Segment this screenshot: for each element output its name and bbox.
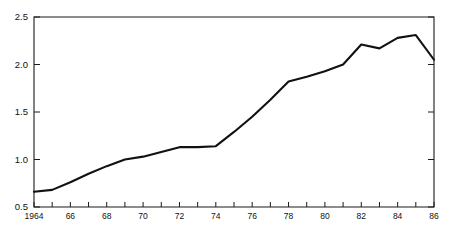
y-axis-tick-labels: 0.51.01.52.02.5 xyxy=(15,11,28,212)
data-series-line xyxy=(34,35,434,192)
x-tick-label: 86 xyxy=(429,211,439,221)
x-tick-label: 82 xyxy=(357,211,367,221)
x-tick-label: 76 xyxy=(247,211,257,221)
y-tick-label: 1.5 xyxy=(15,106,28,117)
axis-frame xyxy=(34,17,434,207)
x-tick-label: 1964 xyxy=(25,211,44,221)
y-tick-label: 1.0 xyxy=(15,154,28,165)
x-tick-label: 70 xyxy=(138,211,148,221)
x-tick-label: 72 xyxy=(175,211,185,221)
x-tick-label: 80 xyxy=(320,211,330,221)
plot-border xyxy=(34,17,434,207)
x-tick-label: 84 xyxy=(393,211,403,221)
chart-figure: 0.51.01.52.02.5 196466687072747678808284… xyxy=(0,0,452,246)
x-tick-label: 68 xyxy=(102,211,112,221)
x-tick-label: 78 xyxy=(284,211,294,221)
y-tick-label: 2.5 xyxy=(15,11,28,22)
x-axis-ticks xyxy=(34,202,434,207)
chart-title xyxy=(0,0,452,5)
x-tick-label: 66 xyxy=(66,211,76,221)
y-tick-label: 2.0 xyxy=(15,59,28,70)
x-tick-label: 74 xyxy=(211,211,221,221)
line-chart-plot: 0.51.01.52.02.5 196466687072747678808284… xyxy=(0,0,452,246)
x-axis-tick-labels: 19646668707274767880828486 xyxy=(25,211,439,221)
y-axis-ticks xyxy=(34,17,434,207)
